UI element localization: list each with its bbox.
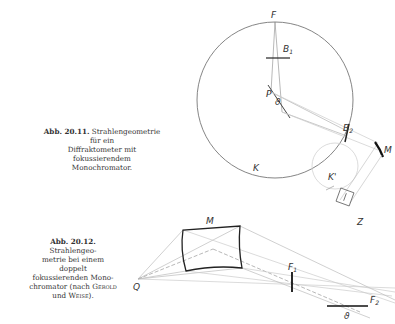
label-f2: F2	[370, 295, 379, 306]
label-z: Z	[356, 217, 364, 227]
label-p: P	[266, 89, 272, 99]
label-b1: B1	[283, 44, 293, 55]
label-q: Q	[133, 282, 140, 292]
detector-z	[336, 188, 354, 206]
diffractometer-diagram: F B1 P ϑ B2 M K K' Z	[197, 10, 392, 227]
label-theta: ϑ	[275, 97, 281, 107]
double-focusing-diagram: M Q F1 F2 ϑ	[133, 216, 395, 321]
label-k: K	[253, 163, 260, 173]
label-k-prime: K'	[328, 172, 336, 182]
diagram-canvas: F B1 P ϑ B2 M K K' Z M Q F1 F2	[0, 0, 395, 324]
label-m: M	[384, 145, 392, 155]
label-b2: B2	[343, 123, 353, 134]
label-theta: ϑ	[344, 311, 350, 321]
label-f: F	[271, 10, 277, 20]
label-f1: F1	[288, 262, 297, 273]
label-m: M	[206, 216, 214, 226]
